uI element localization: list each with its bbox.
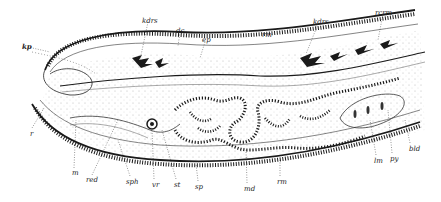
anatomical-figure: kdrs dc ep rm kdrs rcrm kp r m red sph v… xyxy=(0,0,441,202)
label-py: py xyxy=(390,156,398,163)
label-rm-top: rm xyxy=(262,32,272,39)
label-st: st xyxy=(174,182,180,189)
label-kdrs-2: kdrs xyxy=(313,19,329,26)
label-lm: lm xyxy=(374,158,383,165)
label-kp: kp xyxy=(22,43,32,50)
label-kdrs-1: kdrs xyxy=(142,18,158,25)
label-r: r xyxy=(30,131,33,138)
label-m: m xyxy=(72,170,79,177)
label-dc: dc xyxy=(176,28,184,35)
label-md: md xyxy=(244,186,255,193)
worm-section-drawing xyxy=(0,0,441,202)
label-bld: bld xyxy=(409,146,420,153)
label-rcrm: rcrm xyxy=(375,10,392,17)
label-vr: vr xyxy=(152,182,159,189)
label-sph: sph xyxy=(126,179,139,186)
label-rm-bottom: rm xyxy=(277,179,287,186)
label-sp: sp xyxy=(195,184,203,191)
label-ep: ep xyxy=(202,37,211,44)
label-red: red xyxy=(86,177,98,184)
